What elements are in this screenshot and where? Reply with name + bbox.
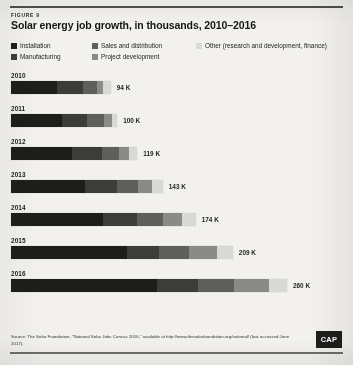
bar-line: 260 K bbox=[11, 279, 343, 292]
bar-value-label: 94 K bbox=[117, 84, 131, 91]
bar-line: 209 K bbox=[11, 246, 343, 259]
bar-segment[interactable] bbox=[11, 213, 103, 226]
legend-label: Project development bbox=[101, 53, 159, 60]
bar-group: 2014174 K bbox=[11, 204, 343, 226]
bar-segment[interactable] bbox=[103, 81, 110, 94]
bar-year-label: 2014 bbox=[11, 204, 343, 211]
bar-line: 174 K bbox=[11, 213, 343, 226]
bar-segment[interactable] bbox=[163, 213, 182, 226]
cap-logo: CAP bbox=[316, 331, 342, 348]
bar-segment[interactable] bbox=[72, 147, 103, 160]
bar-segment[interactable] bbox=[217, 246, 233, 259]
top-rule bbox=[10, 6, 343, 8]
bar-segment[interactable] bbox=[62, 114, 87, 127]
bar-segment[interactable] bbox=[83, 81, 97, 94]
bar-year-label: 2013 bbox=[11, 171, 343, 178]
legend-item-manufacturing: Manufacturing bbox=[11, 53, 92, 60]
stacked-bar[interactable] bbox=[11, 114, 117, 127]
bar-group: 2016260 K bbox=[11, 270, 343, 292]
legend-label: Other (research and development, finance… bbox=[205, 42, 327, 49]
bar-year-label: 2012 bbox=[11, 138, 343, 145]
bar-group: 2015209 K bbox=[11, 237, 343, 259]
bar-segment[interactable] bbox=[104, 114, 111, 127]
bar-value-label: 119 K bbox=[143, 150, 160, 157]
legend-swatch-icon bbox=[92, 54, 98, 60]
bar-segment[interactable] bbox=[11, 147, 72, 160]
bar-value-label: 143 K bbox=[169, 183, 186, 190]
figure-title: Solar energy job growth, in thousands, 2… bbox=[11, 19, 256, 31]
bar-segment[interactable] bbox=[127, 246, 159, 259]
bar-group: 2011100 K bbox=[11, 105, 343, 127]
bar-segment[interactable] bbox=[57, 81, 84, 94]
bar-value-label: 174 K bbox=[202, 216, 219, 223]
bar-group: 2013143 K bbox=[11, 171, 343, 193]
bar-value-label: 100 K bbox=[123, 117, 140, 124]
legend-item-project-development: Project development bbox=[92, 53, 196, 60]
bar-segment[interactable] bbox=[11, 81, 57, 94]
stacked-bar[interactable] bbox=[11, 81, 111, 94]
legend-row-2: Manufacturing Project development bbox=[11, 53, 347, 64]
stacked-bar[interactable] bbox=[11, 147, 137, 160]
bar-line: 143 K bbox=[11, 180, 343, 193]
bar-segment[interactable] bbox=[152, 180, 163, 193]
bar-year-label: 2015 bbox=[11, 237, 343, 244]
bar-segment[interactable] bbox=[11, 114, 62, 127]
stacked-bar[interactable] bbox=[11, 279, 287, 292]
bar-segment[interactable] bbox=[198, 279, 234, 292]
chart-legend: Installation Sales and distribution Othe… bbox=[11, 42, 347, 64]
bar-segment[interactable] bbox=[11, 279, 157, 292]
bar-segment[interactable] bbox=[87, 114, 104, 127]
source-note: Source: The Solar Foundation, "National … bbox=[11, 334, 291, 347]
bar-segment[interactable] bbox=[269, 279, 287, 292]
bottom-rule bbox=[10, 352, 343, 354]
bar-value-label: 260 K bbox=[293, 282, 310, 289]
bar-value-label: 209 K bbox=[239, 249, 256, 256]
stacked-bar-chart: 201094 K2011100 K2012119 K2013143 K20141… bbox=[11, 72, 343, 292]
bar-segment[interactable] bbox=[112, 114, 117, 127]
bar-segment[interactable] bbox=[102, 147, 119, 160]
legend-swatch-icon bbox=[11, 54, 17, 60]
legend-item-other: Other (research and development, finance… bbox=[196, 42, 346, 49]
legend-item-installation: Installation bbox=[11, 42, 92, 49]
figure-page: FIGURE 9 Solar energy job growth, in tho… bbox=[0, 0, 353, 365]
bar-group: 2012119 K bbox=[11, 138, 343, 160]
legend-row-1: Installation Sales and distribution Othe… bbox=[11, 42, 347, 53]
bar-segment[interactable] bbox=[11, 180, 85, 193]
stacked-bar[interactable] bbox=[11, 180, 163, 193]
bar-year-label: 2011 bbox=[11, 105, 343, 112]
bar-year-label: 2010 bbox=[11, 72, 343, 79]
bar-line: 119 K bbox=[11, 147, 343, 160]
legend-swatch-icon bbox=[196, 43, 202, 49]
figure-label: FIGURE 9 bbox=[11, 12, 40, 18]
bar-segment[interactable] bbox=[189, 246, 217, 259]
bar-segment[interactable] bbox=[157, 279, 197, 292]
bar-year-label: 2016 bbox=[11, 270, 343, 277]
bar-segment[interactable] bbox=[138, 180, 152, 193]
legend-label: Sales and distribution bbox=[101, 42, 162, 49]
bar-segment[interactable] bbox=[159, 246, 190, 259]
bar-segment[interactable] bbox=[234, 279, 269, 292]
bar-segment[interactable] bbox=[85, 180, 117, 193]
stacked-bar[interactable] bbox=[11, 246, 233, 259]
bar-segment[interactable] bbox=[129, 147, 137, 160]
bar-segment[interactable] bbox=[182, 213, 196, 226]
bar-group: 201094 K bbox=[11, 72, 343, 94]
bar-segment[interactable] bbox=[119, 147, 129, 160]
bar-line: 100 K bbox=[11, 114, 343, 127]
stacked-bar[interactable] bbox=[11, 213, 196, 226]
bar-segment[interactable] bbox=[103, 213, 137, 226]
legend-swatch-icon bbox=[11, 43, 17, 49]
legend-item-sales-and-distribution: Sales and distribution bbox=[92, 42, 196, 49]
bar-segment[interactable] bbox=[11, 246, 127, 259]
legend-swatch-icon bbox=[92, 43, 98, 49]
bar-segment[interactable] bbox=[137, 213, 162, 226]
bar-segment[interactable] bbox=[117, 180, 138, 193]
legend-label: Manufacturing bbox=[20, 53, 61, 60]
legend-label: Installation bbox=[20, 42, 51, 49]
bar-line: 94 K bbox=[11, 81, 343, 94]
